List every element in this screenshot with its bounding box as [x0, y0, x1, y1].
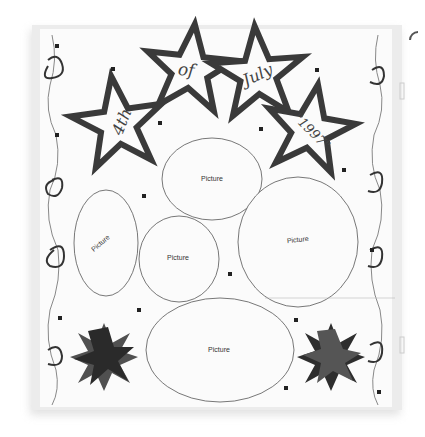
oval-bottom: Picture: [146, 298, 294, 402]
svg-text:Picture: Picture: [201, 175, 223, 182]
svg-text:Picture: Picture: [167, 254, 189, 261]
oval-right: Picture: [238, 177, 358, 307]
oval-center: Picture: [139, 216, 219, 302]
oval-left: Picture: [74, 190, 138, 296]
scrapbook-photo: 4th of July "1997" Picture Picture Pictu…: [0, 0, 425, 437]
svg-text:Picture: Picture: [208, 346, 230, 353]
